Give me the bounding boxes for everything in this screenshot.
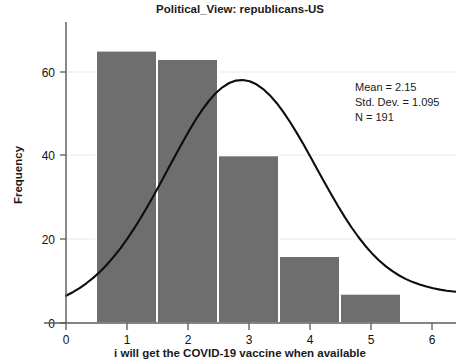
stat-mean: Mean = 2.15 xyxy=(355,81,416,93)
x-tick-label-6: 6 xyxy=(429,333,436,347)
y-axis: 60 40 20 0 Frequency xyxy=(12,22,66,331)
y-tick-label-40: 40 xyxy=(42,149,56,163)
bar-3 xyxy=(218,155,279,323)
bar-5 xyxy=(340,294,401,323)
x-tick-label-4: 4 xyxy=(307,333,314,347)
x-tick-label-2: 2 xyxy=(185,333,192,347)
y-tick-label-0: 0 xyxy=(48,317,55,331)
x-tick-label-3: 3 xyxy=(246,333,253,347)
plot-svg: 60 40 20 0 Frequency 0 1 2 3 4 5 6 i wil… xyxy=(0,0,456,360)
histogram-chart: 60 40 20 0 Frequency 0 1 2 3 4 5 6 i wil… xyxy=(0,0,456,360)
bar-2 xyxy=(157,59,218,323)
x-tick-label-5: 5 xyxy=(368,333,375,347)
statistics-annotation: Mean = 2.15 Std. Dev. = 1.095 N = 191 xyxy=(355,81,440,123)
bar-4 xyxy=(279,256,340,323)
x-axis: 0 1 2 3 4 5 6 i will get the COVID-19 va… xyxy=(44,323,456,359)
y-tick-label-60: 60 xyxy=(42,66,56,80)
chart-title: Political_View: republicans-US xyxy=(156,3,324,15)
bar-1 xyxy=(96,51,157,323)
x-axis-title: i will get the COVID-19 vaccine when ava… xyxy=(114,347,366,359)
x-tick-label-0: 0 xyxy=(63,333,70,347)
x-tick-label-1: 1 xyxy=(124,333,131,347)
y-axis-title: Frequency xyxy=(12,145,24,204)
stat-n: N = 191 xyxy=(355,111,394,123)
y-tick-label-20: 20 xyxy=(42,233,56,247)
stat-std-dev: Std. Dev. = 1.095 xyxy=(355,96,440,108)
